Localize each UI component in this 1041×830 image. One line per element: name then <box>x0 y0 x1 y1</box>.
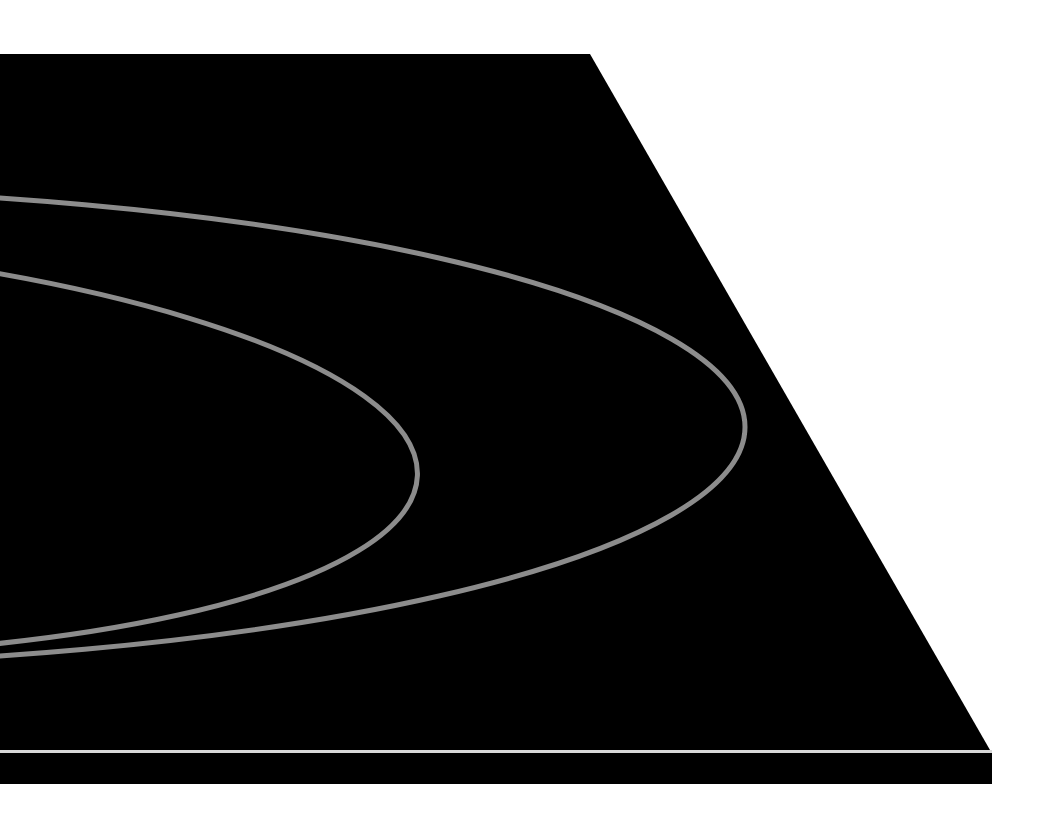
perspective-board-illustration <box>0 0 1041 830</box>
board-edge-highlight <box>0 750 992 753</box>
board-front-edge <box>0 753 992 784</box>
